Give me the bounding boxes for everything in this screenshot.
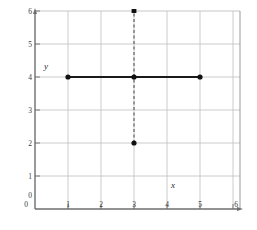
x-tick-label-6: 6 bbox=[234, 200, 238, 209]
data-point-3-6 bbox=[132, 9, 137, 13]
y-tick-label-6: 6 bbox=[28, 7, 32, 16]
chart-figure: 0 1 2 3 4 5 6 0 1 2 3 4 5 6 y x bbox=[0, 0, 257, 230]
coordinate-plot: 0 1 2 3 4 5 6 0 1 2 3 4 5 6 y x bbox=[0, 0, 257, 230]
data-point-1-4 bbox=[65, 74, 70, 79]
y-tick-label-3: 3 bbox=[28, 106, 32, 115]
y-tick-label-1: 1 bbox=[28, 172, 32, 181]
y-tick-label-0: 0 bbox=[28, 191, 32, 200]
y-tick-label-2: 2 bbox=[28, 139, 32, 148]
x-tick-label-3: 3 bbox=[132, 200, 136, 209]
y-axis-label: y bbox=[43, 61, 48, 71]
x-axis-label: x bbox=[170, 180, 175, 190]
y-tick-label-4: 4 bbox=[28, 73, 32, 82]
y-tick-label-5: 5 bbox=[28, 40, 32, 49]
data-point-3-2 bbox=[131, 140, 136, 145]
x-tick-label-4: 4 bbox=[165, 200, 169, 209]
x-tick-label-1: 1 bbox=[66, 200, 70, 209]
x-tick-label-2: 2 bbox=[99, 200, 103, 209]
x-tick-label-5: 5 bbox=[198, 200, 202, 209]
data-point-5-4 bbox=[197, 74, 202, 79]
x-tick-label-0: 0 bbox=[24, 200, 28, 209]
data-point-3-4 bbox=[131, 74, 136, 79]
